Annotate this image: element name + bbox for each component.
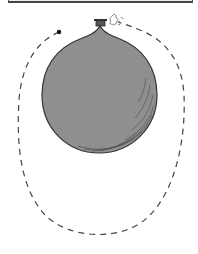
- flight-path-start-dot: [57, 30, 61, 34]
- balloon-valve-cap: [94, 19, 107, 21]
- balloon-diagram: [0, 0, 198, 254]
